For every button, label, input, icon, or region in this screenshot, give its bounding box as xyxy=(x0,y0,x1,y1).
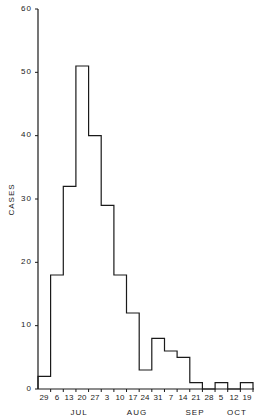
y-tick-label-40: 40 xyxy=(10,131,32,139)
month-label-oct: OCT xyxy=(222,409,252,417)
x-tick-label: 29 xyxy=(37,394,51,402)
x-tick-label: 20 xyxy=(75,394,89,402)
month-label-aug: AUG xyxy=(122,409,152,417)
x-tick-label: 14 xyxy=(176,394,190,402)
x-tick-label: 10 xyxy=(113,394,127,402)
x-tick-label: 5 xyxy=(214,394,228,402)
x-tick-label: 19 xyxy=(240,394,254,402)
y-tick-label-0: 0 xyxy=(10,385,32,393)
x-tick-label: 24 xyxy=(138,394,152,402)
x-tick-label: 13 xyxy=(62,394,76,402)
month-label-sep: SEP xyxy=(180,409,210,417)
y-tick-label-50: 50 xyxy=(10,68,32,76)
x-tick-label: 21 xyxy=(189,394,203,402)
y-tick-label-60: 60 xyxy=(10,5,32,13)
x-tick-label: 3 xyxy=(100,394,114,402)
x-tick-label: 31 xyxy=(151,394,165,402)
epidemic-curve-chart: CASES 0 10 20 30 40 50 60 29 6 13 20 27 … xyxy=(0,0,262,420)
histogram-plot xyxy=(0,0,262,420)
histogram-outline xyxy=(38,66,253,389)
x-tick-label: 12 xyxy=(227,394,241,402)
y-tick-label-10: 10 xyxy=(10,321,32,329)
y-tick-label-30: 30 xyxy=(10,195,32,203)
month-label-jul: JUL xyxy=(64,409,94,417)
y-tick-label-20: 20 xyxy=(10,258,32,266)
